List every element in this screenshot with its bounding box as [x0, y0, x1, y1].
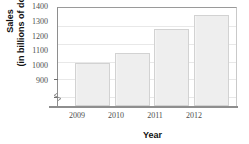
y-tick-label-900: 900 — [14, 77, 48, 85]
x-tick-label-2011: 2011 — [135, 111, 175, 120]
axis-break-icon — [53, 92, 62, 106]
y-tick-label-1300: 1300 — [14, 18, 48, 26]
x-tick-label-2012: 2012 — [174, 111, 214, 120]
bar-2012 — [194, 15, 229, 107]
x-axis-title-text: Year — [143, 130, 162, 140]
bar-2011 — [154, 29, 189, 106]
y-tick-mark-1000 — [54, 79, 58, 80]
x-tick-label-2009: 2009 — [57, 111, 97, 120]
y-tick-label-1200: 1200 — [14, 33, 48, 41]
x-axis-line — [49, 106, 238, 108]
y-tick-label-1100: 1100 — [14, 47, 48, 55]
x-axis-title: Year — [0, 130, 249, 140]
plot-area — [57, 7, 237, 106]
bar-2009 — [75, 63, 110, 106]
y-tick-label-1000: 1000 — [14, 62, 48, 70]
bar-2010 — [115, 53, 150, 106]
y-tick-label-1400: 1400 — [14, 3, 48, 11]
x-tick-label-2010: 2010 — [96, 111, 136, 120]
bar-chart: Sales (in billions of dollars) 1400 1300… — [0, 0, 249, 144]
